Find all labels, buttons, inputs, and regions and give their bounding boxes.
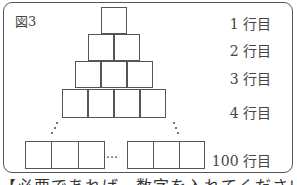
row-label-100: 100 行目 <box>212 150 271 170</box>
row-label-2: 2 行目 <box>230 40 271 60</box>
ellipsis-dot <box>54 127 56 129</box>
box-row4-2 <box>88 89 114 118</box>
box-row3-2 <box>101 61 127 88</box>
box-row3-3 <box>127 61 153 88</box>
box-row100-100 <box>179 141 205 169</box>
box-row3-1 <box>75 61 101 88</box>
row100-ellipsis: … <box>106 148 118 160</box>
box-row100-2 <box>51 141 79 169</box>
row-label-3: 3 行目 <box>230 68 271 88</box>
ellipsis-dot <box>173 122 175 124</box>
box-row100-99 <box>153 141 180 169</box>
box-row4-4 <box>140 89 166 118</box>
instruction-caption: 【必要であれば，数字を入れてください】 <box>0 173 297 185</box>
figure-label: 図3 <box>15 11 36 30</box>
ellipsis-dot <box>51 132 53 134</box>
box-row100-98 <box>127 141 154 169</box>
ellipsis-dot <box>56 122 58 124</box>
box-row2-2 <box>114 34 140 61</box>
ellipsis-dot <box>175 127 177 129</box>
ellipsis-dot <box>177 132 179 134</box>
box-row4-3 <box>114 89 140 118</box>
box-row4-1 <box>62 89 88 118</box>
box-row1-1 <box>101 7 127 34</box>
row-label-4: 4 行目 <box>230 102 271 122</box>
row-label-1: 1 行目 <box>230 13 271 33</box>
box-row100-3 <box>78 141 105 169</box>
box-row100-1 <box>25 141 52 169</box>
box-row2-1 <box>88 34 114 61</box>
